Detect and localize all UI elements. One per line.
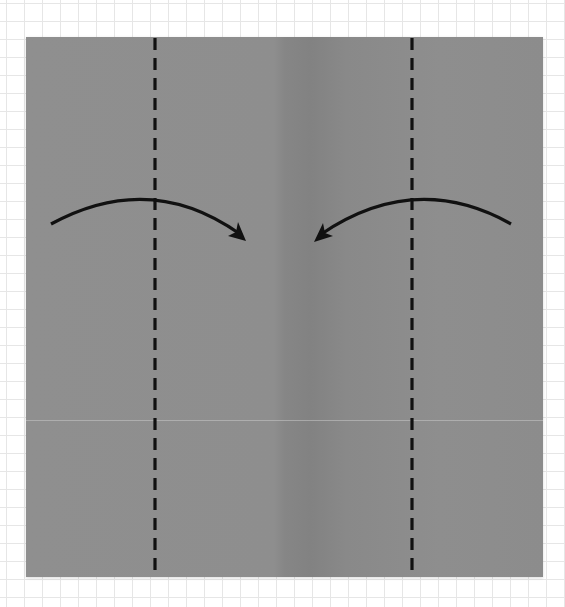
fold-diagram-overlay <box>0 0 565 607</box>
left-fold-arrow-icon <box>51 199 246 241</box>
